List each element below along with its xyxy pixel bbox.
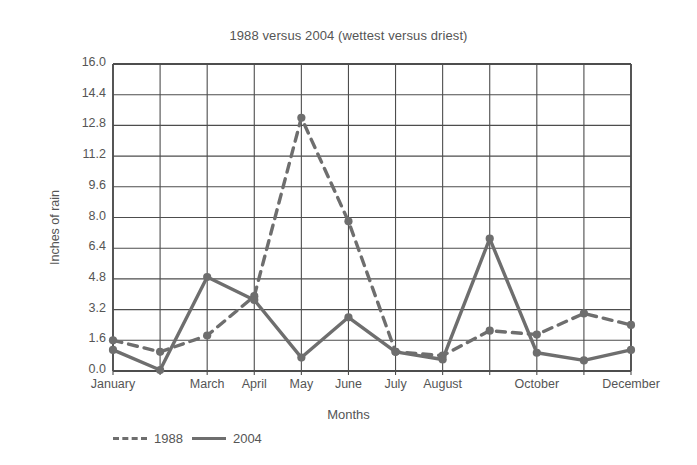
x-tick-label: August: [398, 377, 488, 391]
plot-area: [0, 0, 697, 465]
y-tick-label: 6.4: [62, 239, 106, 253]
legend-swatch-dashed: [113, 437, 147, 440]
x-tick-label: October: [492, 377, 582, 391]
y-axis-title: Inches of rain: [48, 190, 62, 265]
x-axis-title: Months: [0, 407, 697, 422]
data-point-2004: [250, 296, 258, 304]
data-point-1988: [109, 336, 117, 344]
x-tick-label: January: [68, 377, 158, 391]
y-tick-label: 16.0: [62, 55, 106, 69]
y-tick-label: 0.0: [62, 362, 106, 376]
data-point-2004: [297, 353, 305, 361]
data-point-2004: [580, 356, 588, 364]
data-point-1988: [439, 352, 447, 360]
data-point-2004: [203, 273, 211, 281]
y-tick-label: 1.6: [62, 331, 106, 345]
y-tick-label: 3.2: [62, 301, 106, 315]
data-point-1988: [486, 327, 494, 335]
data-point-1988: [580, 309, 588, 317]
legend-item-2004[interactable]: 2004: [192, 432, 262, 445]
data-point-1988: [250, 292, 258, 300]
y-tick-label: 9.6: [62, 178, 106, 192]
x-tick-label: December: [586, 377, 676, 391]
data-point-2004: [486, 235, 494, 243]
rainfall-line-chart: 1988 versus 2004 (wettest versus driest)…: [0, 0, 697, 465]
data-point-2004: [156, 366, 164, 374]
series-line-2004: [113, 239, 631, 370]
data-point-1988: [533, 330, 541, 338]
series-line-1988: [113, 118, 631, 356]
data-point-2004: [533, 349, 541, 357]
legend-label: 1988: [154, 432, 183, 445]
y-tick-label: 14.4: [62, 86, 106, 100]
data-point-2004: [627, 346, 635, 354]
data-point-1988: [203, 331, 211, 339]
data-point-2004: [439, 355, 447, 363]
y-tick-label: 4.8: [62, 270, 106, 284]
data-point-2004: [344, 313, 352, 321]
y-tick-label: 8.0: [62, 209, 106, 223]
data-point-1988: [156, 348, 164, 356]
data-point-1988: [627, 321, 635, 329]
y-tick-label: 12.8: [62, 116, 106, 130]
y-tick-label: 11.2: [62, 147, 106, 161]
data-point-1988: [391, 348, 399, 356]
data-point-2004: [109, 346, 117, 354]
chart-title: 1988 versus 2004 (wettest versus driest): [0, 28, 697, 43]
data-point-1988: [297, 114, 305, 122]
legend-item-1988[interactable]: 1988: [113, 432, 183, 445]
chart-legend: 19882004: [113, 432, 262, 445]
data-point-2004: [391, 348, 399, 356]
data-point-1988: [344, 217, 352, 225]
legend-swatch-solid: [192, 437, 226, 440]
legend-label: 2004: [233, 432, 262, 445]
